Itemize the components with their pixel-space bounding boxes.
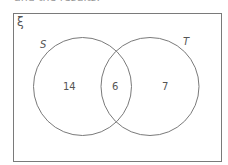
- universal-set-symbol: ξ: [17, 16, 24, 28]
- set-t-label: T: [183, 37, 189, 47]
- t-only-count: 7: [162, 82, 168, 92]
- set-s-label: S: [40, 40, 46, 50]
- s-only-count: 14: [63, 82, 76, 92]
- intersection-count: 6: [112, 82, 118, 92]
